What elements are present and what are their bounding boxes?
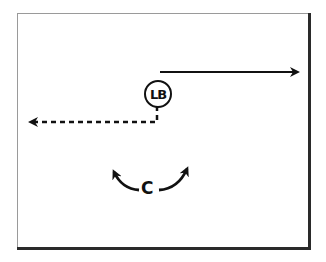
play-diagram: LB C <box>0 0 326 262</box>
player-c: C <box>141 180 153 197</box>
player-lb: LB <box>144 80 172 108</box>
routes-layer <box>0 0 326 262</box>
player-c-label: C <box>141 178 153 198</box>
c-left-curved-arrow <box>114 172 139 190</box>
player-lb-label: LB <box>150 87 166 102</box>
c-right-curved-arrow <box>159 169 187 190</box>
dashed-route-arrow <box>31 106 157 122</box>
